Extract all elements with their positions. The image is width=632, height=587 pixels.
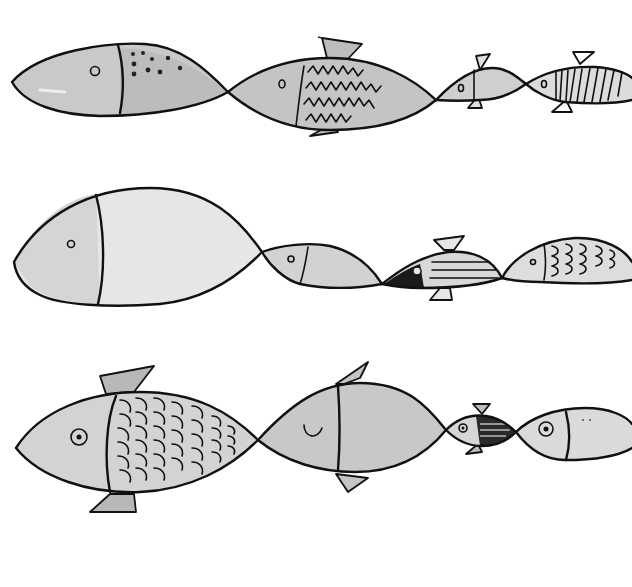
smiling-fish (258, 362, 446, 492)
big-pale-fish (14, 188, 262, 306)
fish-row-3 (16, 362, 632, 512)
scalloped-scale-fish (16, 366, 258, 512)
small-finned-fish (436, 54, 526, 108)
fish-row-1 (12, 38, 632, 136)
striped-fish (526, 52, 632, 112)
fish-row-2 (14, 188, 632, 306)
medium-fish (262, 244, 382, 288)
tail-end-fish (516, 408, 632, 460)
dark-head-striped-fish (382, 236, 502, 300)
fish-chain-illustration (0, 0, 632, 587)
large-spotted-fish (12, 44, 228, 116)
wave-scale-fish (502, 238, 632, 283)
stray-ink-mark (318, 37, 322, 38)
scaled-fish-with-fins (228, 38, 436, 136)
tiny-hatched-fish (446, 404, 516, 454)
